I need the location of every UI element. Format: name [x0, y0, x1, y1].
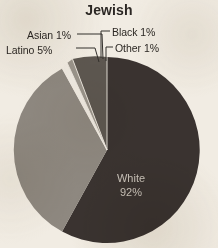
- leader-line-asian: [77, 34, 103, 59]
- slice-label-white-percent: 92%: [120, 186, 142, 198]
- chart-page: Jewish White 92% Asian 1% Latino 5% Blac…: [0, 0, 218, 248]
- annotation-label-asian: Asian 1%: [27, 29, 71, 41]
- slice-label-white-name: White: [117, 172, 145, 184]
- annotation-label-black: Black 1%: [112, 26, 155, 38]
- annotation-label-latino: Latino 5%: [6, 44, 52, 56]
- annotation-label-other: Other 1%: [115, 42, 159, 54]
